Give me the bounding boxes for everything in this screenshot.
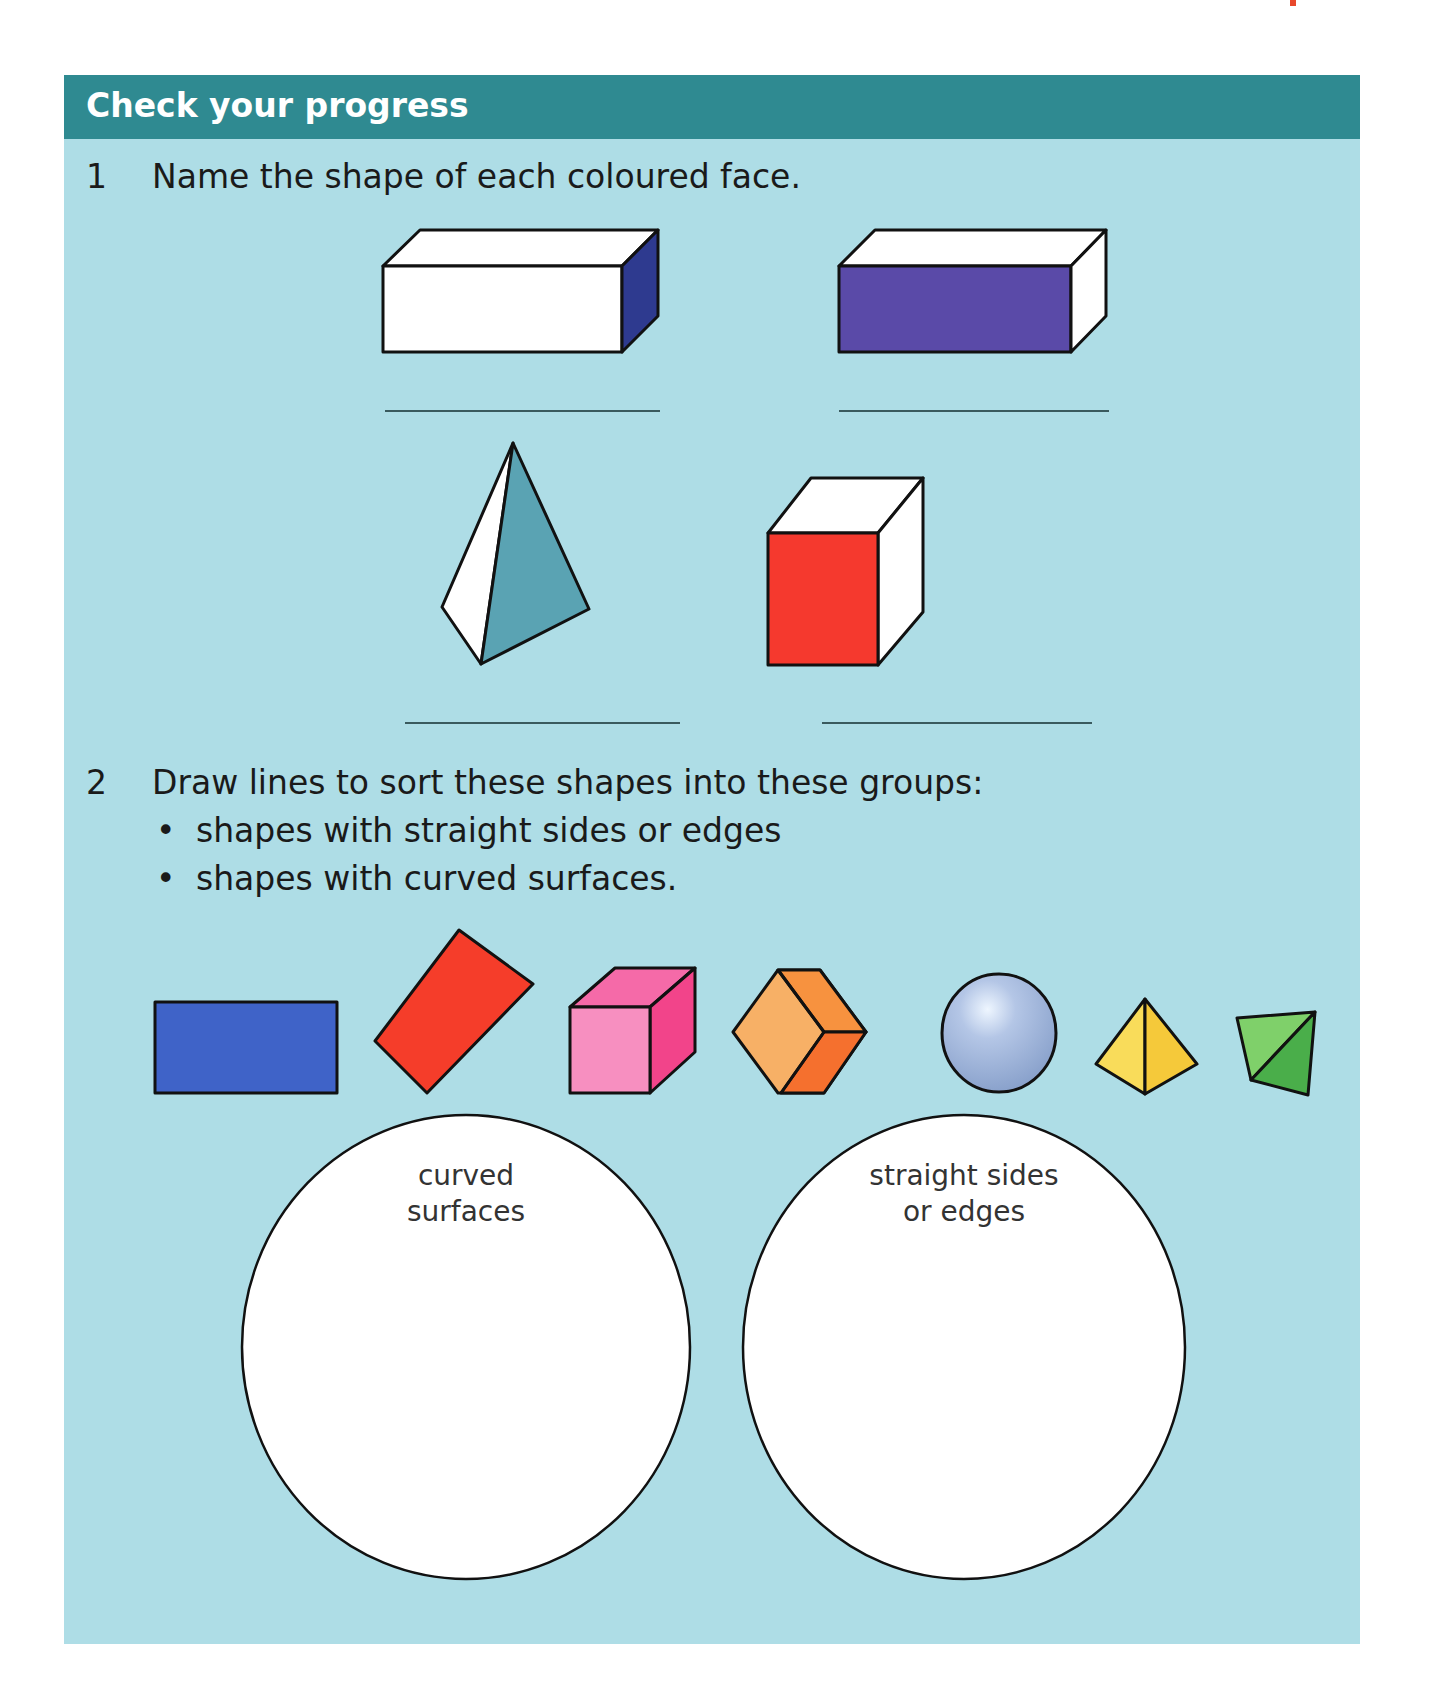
- question-2-number: 2: [86, 763, 107, 803]
- yellow-pyramid-icon: [1096, 999, 1197, 1094]
- straight-label-line1: straight sides: [814, 1158, 1114, 1194]
- tetrahedron-face-icon: [442, 443, 589, 664]
- cuboid-front-face-icon: [839, 230, 1106, 352]
- bullet-icon: •: [156, 811, 175, 851]
- blue-sphere-icon: [942, 974, 1056, 1092]
- question-2-prompt: Draw lines to sort these shapes into the…: [152, 763, 983, 803]
- blue-rectangle-icon: [155, 1002, 337, 1093]
- answer-line-3[interactable]: [405, 722, 680, 724]
- cube-front-face-icon: [768, 478, 923, 665]
- bullet-icon: •: [156, 859, 175, 899]
- bullet-straight: shapes with straight sides or edges: [196, 811, 781, 851]
- cuboid-side-face-icon: [383, 230, 658, 352]
- straight-label-line2: or edges: [814, 1194, 1114, 1230]
- green-tetrahedron-icon: [1237, 1012, 1315, 1095]
- answer-line-1[interactable]: [385, 410, 660, 412]
- pink-cube-icon: [570, 968, 695, 1093]
- curved-label-line2: surfaces: [316, 1194, 616, 1230]
- curved-label-line1: curved: [316, 1158, 616, 1194]
- bullet-curved: shapes with curved surfaces.: [196, 859, 677, 899]
- orange-cube-icon: [733, 970, 866, 1093]
- figures-canvas: [0, 0, 1431, 1704]
- red-rotated-rectangle-icon: [375, 930, 533, 1093]
- answer-line-2[interactable]: [839, 410, 1109, 412]
- answer-line-4[interactable]: [822, 722, 1092, 724]
